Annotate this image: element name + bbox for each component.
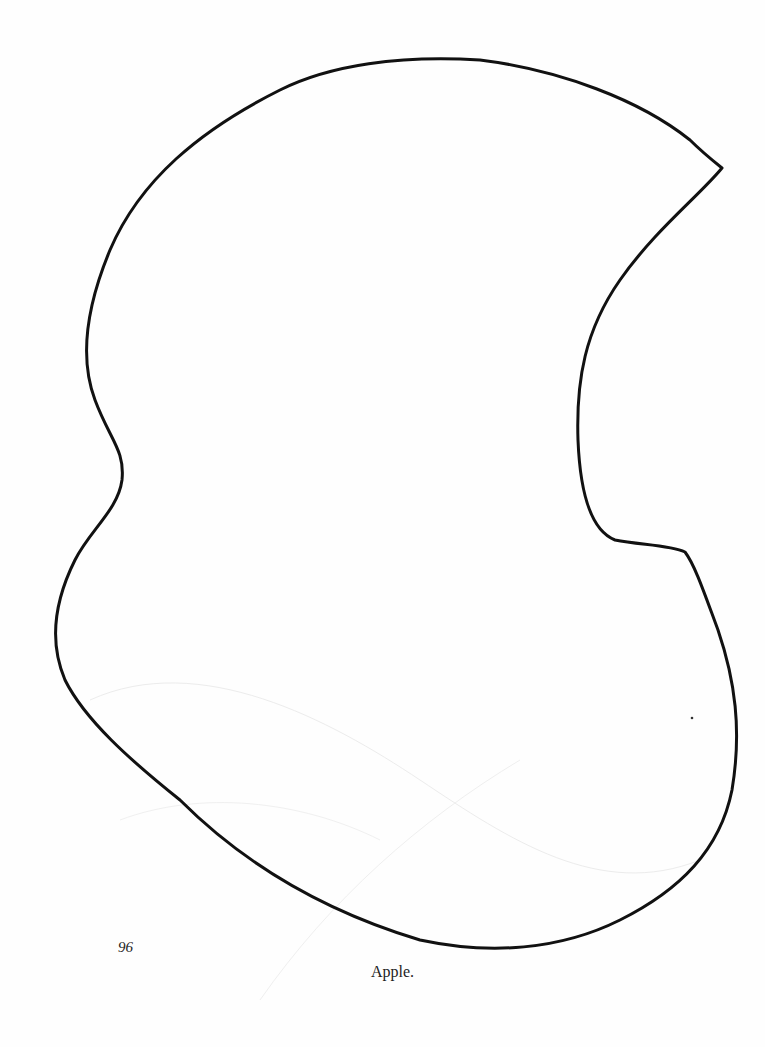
page-number: 96	[118, 939, 133, 956]
apple-outline-figure	[0, 0, 765, 1047]
apple-outline-path	[55, 59, 736, 948]
page: 96 Apple.	[0, 0, 765, 1047]
ink-speck	[691, 717, 694, 720]
figure-caption: Apple.	[371, 963, 414, 981]
